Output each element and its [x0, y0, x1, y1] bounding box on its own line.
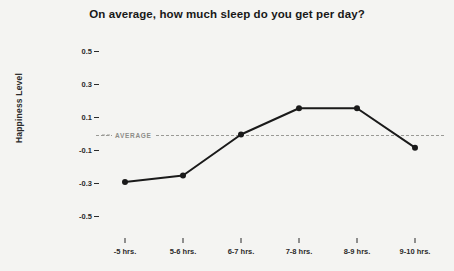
x-tick-label-1: 5-6 hrs.: [170, 247, 197, 256]
y-tick-label: 0.5: [48, 47, 92, 56]
x-tick-label-0: -5 hrs.: [114, 247, 137, 256]
data-point-3[interactable]: [296, 105, 302, 111]
plot-area: AVERAGE: [96, 36, 444, 233]
y-tick-label: 0.1: [48, 113, 92, 122]
x-tick-label-3: 7-8 hrs.: [286, 247, 313, 256]
x-tick-mark-3: [299, 238, 300, 243]
y-tick-1: 0.3: [48, 80, 92, 90]
x-tick-mark-4: [357, 238, 358, 243]
data-point-5[interactable]: [412, 145, 418, 151]
y-axis-title: Happiness Level: [14, 53, 24, 163]
data-series-line: [96, 36, 444, 233]
x-tick-label-5: 9-10 hrs.: [400, 247, 431, 256]
y-tick-label: 0.3: [48, 80, 92, 89]
y-tick-2: 0.1: [48, 113, 92, 123]
y-tick-3: -0.1: [48, 146, 92, 156]
x-tick-label-4: 8-9 hrs.: [344, 247, 371, 256]
data-point-1[interactable]: [180, 173, 186, 179]
y-tick-label: -0.3: [48, 179, 92, 188]
x-tick-mark-5: [415, 238, 416, 243]
sleep-happiness-line-chart: On average, how much sleep do you get pe…: [0, 0, 454, 271]
y-tick-label: -0.1: [48, 146, 92, 155]
data-point-4[interactable]: [354, 105, 360, 111]
y-tick-5: -0.5: [48, 212, 92, 222]
series-path: [125, 108, 415, 182]
x-tick-mark-0: [125, 238, 126, 243]
y-tick-4: -0.3: [48, 179, 92, 189]
x-tick-mark-2: [241, 238, 242, 243]
data-point-2[interactable]: [238, 132, 244, 138]
y-tick-0: 0.5: [48, 47, 92, 57]
chart-title: On average, how much sleep do you get pe…: [0, 8, 454, 20]
y-tick-label: -0.5: [48, 212, 92, 221]
x-tick-mark-1: [183, 238, 184, 243]
x-tick-label-2: 6-7 hrs.: [228, 247, 255, 256]
data-point-0[interactable]: [122, 179, 128, 185]
